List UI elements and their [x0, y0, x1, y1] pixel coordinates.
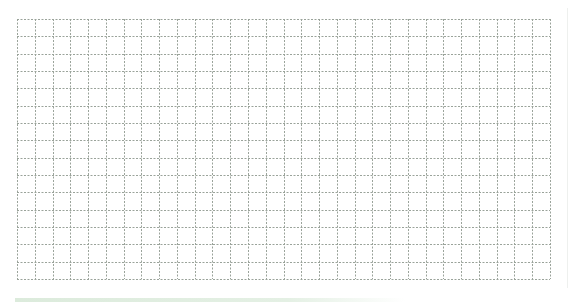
right-edge-divider: [567, 8, 568, 288]
grid-lines: [17, 19, 551, 280]
dashed-grid-paper: [17, 19, 550, 279]
bottom-bar: [15, 298, 405, 302]
page: [0, 0, 570, 302]
